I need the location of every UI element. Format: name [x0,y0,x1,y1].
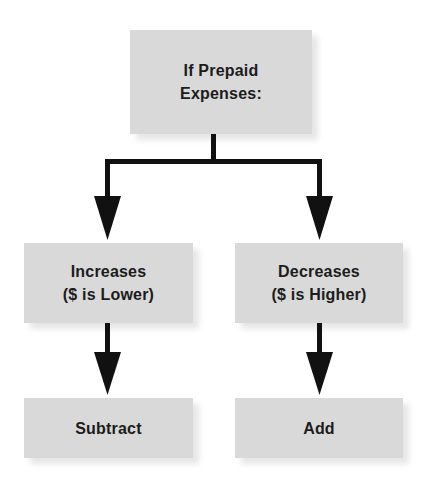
left-branch-arrowhead [94,196,121,240]
right-branch-stem-line [317,159,322,199]
left-result-arrowhead [94,352,121,395]
result-node-add: Add [235,398,403,458]
condition-decreases-line-1: Decreases [271,260,366,283]
left-result-stem-line [105,323,110,353]
left-branch-stem-line [105,159,110,199]
result-subtract-label: Subtract [75,417,142,440]
root-node-label-line-1: If Prepaid [180,59,262,82]
root-node-prepaid-expenses: If Prepaid Expenses: [130,30,312,134]
root-stem-line [211,134,216,164]
condition-node-increases: Increases ($ is Lower) [24,243,193,323]
right-result-arrowhead [306,352,333,395]
root-node-label-line-2: Expenses: [180,82,262,105]
result-node-subtract: Subtract [24,398,193,458]
split-horizontal-line [105,159,322,164]
condition-increases-line-1: Increases [63,260,154,283]
right-branch-arrowhead [306,196,333,240]
condition-node-decreases: Decreases ($ is Higher) [235,243,403,323]
result-add-label: Add [303,417,335,440]
condition-decreases-line-2: ($ is Higher) [271,283,366,306]
right-result-stem-line [317,323,322,353]
condition-increases-line-2: ($ is Lower) [63,283,154,306]
